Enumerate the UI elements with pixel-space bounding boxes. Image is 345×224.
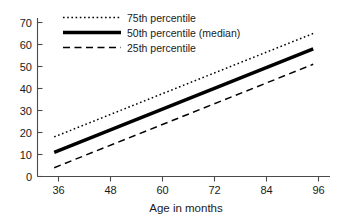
y-tick-label: 30	[20, 105, 32, 117]
x-tick-label: 84	[260, 184, 272, 196]
x-tick-label: 36	[52, 184, 64, 196]
percentile-growth-line-chart: 0 10 20 30 40 50 60 70 36 48 60 72 84 96	[0, 0, 345, 224]
x-tick-label: 48	[104, 184, 116, 196]
legend-label: 50th percentile (median)	[127, 27, 240, 39]
y-tick-label: 20	[20, 127, 32, 139]
chart-figure-root: 0 10 20 30 40 50 60 70 36 48 60 72 84 96	[0, 0, 345, 224]
y-tick-label: 40	[20, 83, 32, 95]
x-axis-title: Age in months	[149, 202, 223, 214]
y-tick-label: 10	[20, 149, 32, 161]
y-tick-label: 70	[20, 17, 32, 29]
legend-label: 75th percentile	[127, 12, 196, 24]
legend-label: 25th percentile	[127, 42, 196, 54]
x-tick-label: 96	[312, 184, 324, 196]
x-tick-label: 60	[156, 184, 168, 196]
y-tick-label: 50	[20, 61, 32, 73]
y-tick-label: 0	[26, 171, 32, 183]
y-tick-label: 60	[20, 39, 32, 51]
x-tick-label: 72	[208, 184, 220, 196]
